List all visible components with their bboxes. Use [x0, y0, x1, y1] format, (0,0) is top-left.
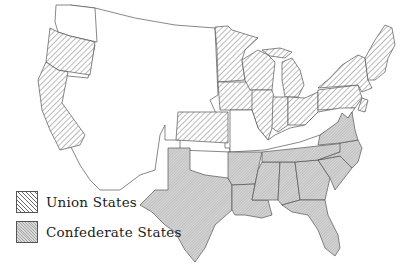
new-england: [365, 25, 395, 80]
legend-item-confederate: Confederate States: [16, 220, 182, 244]
legend-item-union: Union States: [16, 190, 182, 214]
confederate-gray-swatch-icon: [16, 221, 38, 243]
pennsylvania: [318, 85, 362, 110]
legend-label-union: Union States: [46, 194, 137, 210]
michigan: [282, 58, 304, 97]
florida: [282, 200, 340, 256]
legend-label-confederate: Confederate States: [46, 224, 182, 240]
map-legend: Union States Confederate States: [16, 190, 182, 250]
indiana: [272, 97, 288, 132]
union-hatch-swatch-icon: [16, 191, 38, 213]
kansas: [176, 112, 228, 143]
civil-war-map: Union States Confederate States: [0, 0, 416, 265]
